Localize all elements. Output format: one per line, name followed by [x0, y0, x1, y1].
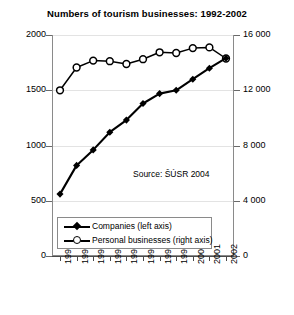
data-point: [189, 45, 196, 52]
series-personal-businesses: [57, 44, 230, 94]
data-point: [90, 57, 97, 64]
data-point: [156, 49, 163, 56]
data-point: [57, 87, 64, 94]
legend-item-companies: Companies (left axis): [64, 220, 172, 233]
chart-legend: Companies (left axis) Personal businesse…: [57, 217, 212, 249]
data-point: [73, 64, 80, 71]
legend-label-personal-businesses: Personal businesses (right axis): [92, 236, 212, 245]
data-point: [173, 50, 180, 57]
series-line: [60, 47, 226, 90]
legend-item-personal-businesses: Personal businesses (right axis): [64, 234, 212, 247]
source-annotation: Source: ŠÚSR 2004: [133, 169, 210, 179]
legend-label-companies: Companies (left axis): [92, 222, 172, 231]
data-point: [123, 61, 130, 68]
open-circle-marker-icon: [64, 235, 90, 246]
data-point: [106, 58, 113, 65]
data-point: [140, 56, 147, 63]
tourism-businesses-chart: Numbers of tourism businesses: 1992-2002…: [0, 0, 294, 315]
data-point: [206, 44, 213, 51]
filled-diamond-marker-icon: [64, 221, 90, 232]
series-layer: [0, 0, 294, 315]
